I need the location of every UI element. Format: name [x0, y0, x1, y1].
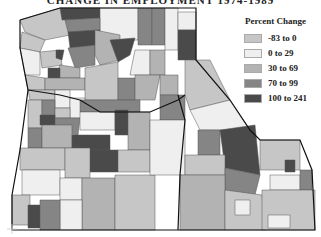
county [65, 148, 90, 178]
legend-swatch [244, 34, 262, 43]
legend-title: Percent Change [245, 16, 320, 26]
county [115, 110, 128, 135]
county [55, 108, 70, 118]
county [40, 115, 55, 125]
county [68, 45, 95, 68]
county [138, 8, 152, 45]
county [40, 200, 60, 230]
county [12, 195, 30, 225]
county [20, 148, 65, 170]
county [28, 128, 42, 148]
crosshair-icon [7, 224, 17, 234]
county [150, 120, 185, 175]
legend-item: 0 to 29 [240, 46, 320, 60]
county [45, 78, 85, 90]
legend-swatch [244, 64, 262, 73]
county [115, 175, 155, 230]
county [82, 178, 115, 230]
legend: Percent Change -83 to 0 0 to 29 30 to 69… [240, 16, 320, 106]
county [118, 150, 150, 172]
county [300, 170, 312, 190]
county [165, 8, 178, 50]
county [285, 160, 295, 172]
county [90, 150, 118, 172]
county [160, 75, 178, 95]
county [28, 205, 40, 228]
county [28, 90, 55, 100]
legend-item: 70 to 99 [240, 76, 320, 90]
county [152, 8, 165, 45]
legend-label: 70 to 99 [268, 78, 298, 88]
county [185, 155, 225, 175]
county [55, 90, 70, 108]
county [42, 125, 72, 148]
county [80, 112, 115, 130]
legend-swatch [244, 79, 262, 88]
county [268, 215, 290, 228]
legend-label: -83 to 0 [268, 33, 297, 43]
county [270, 175, 300, 190]
county [180, 175, 225, 230]
county [198, 130, 220, 155]
county [178, 30, 196, 60]
county [22, 170, 60, 195]
county [220, 125, 260, 175]
legend-swatch [244, 49, 262, 58]
county [56, 50, 64, 60]
legend-item: -83 to 0 [240, 31, 320, 45]
legend-item: 100 to 241 [240, 91, 320, 105]
county [118, 78, 135, 100]
county [150, 50, 165, 75]
legend-swatch [244, 94, 262, 103]
legend-label: 30 to 69 [268, 63, 298, 73]
county [48, 68, 60, 78]
legend-item: 30 to 69 [240, 61, 320, 75]
county [135, 75, 160, 100]
county [60, 200, 82, 230]
county [178, 12, 196, 30]
legend-label: 0 to 29 [268, 48, 294, 58]
county [235, 200, 250, 215]
county [85, 62, 118, 100]
county [60, 178, 82, 200]
county [130, 50, 150, 75]
county [128, 112, 150, 150]
legend-label: 100 to 241 [268, 93, 307, 103]
